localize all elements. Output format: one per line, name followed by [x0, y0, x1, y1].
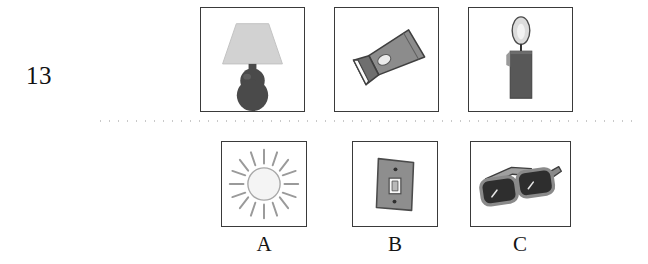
table-lamp-icon — [201, 8, 304, 111]
light-switch-icon — [353, 142, 437, 226]
sun-icon — [222, 142, 306, 226]
option-letter-c: C — [500, 232, 540, 257]
option-letter-a: A — [244, 232, 284, 257]
option-letter-b: B — [375, 232, 415, 257]
sunglasses-icon — [471, 142, 570, 226]
option-image-frame-c[interactable] — [470, 141, 571, 227]
dotted-separator — [96, 120, 636, 122]
stem-image-frame-lamp — [200, 7, 305, 112]
question-number: 13 — [26, 62, 52, 90]
lit-candle-icon — [469, 8, 572, 111]
option-image-frame-b[interactable] — [352, 141, 438, 227]
stem-image-frame-flashlight — [334, 7, 439, 112]
flashlight-icon — [335, 8, 438, 111]
option-image-frame-a[interactable] — [221, 141, 307, 227]
stem-image-frame-candle — [468, 7, 573, 112]
